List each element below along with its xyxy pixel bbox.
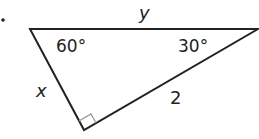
side-x-label: x bbox=[35, 80, 47, 101]
side-2-label: 2 bbox=[170, 87, 181, 108]
bullet-dot bbox=[1, 18, 5, 22]
angle-30-label: 30° bbox=[178, 36, 208, 56]
right-angle-marker bbox=[79, 114, 96, 123]
side-y-label: y bbox=[138, 2, 150, 23]
triangle-diagram: 60° 30° y x 2 bbox=[0, 0, 259, 139]
angle-60-label: 60° bbox=[56, 36, 86, 56]
